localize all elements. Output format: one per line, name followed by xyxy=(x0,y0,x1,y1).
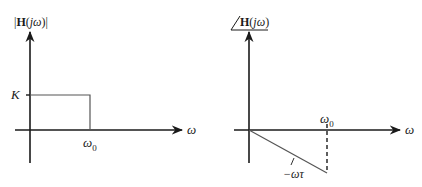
frequency-response-diagram: |H(jω)| K ω0 ω H(jω) ω0 −ωτ ω xyxy=(0,0,422,187)
magnitude-curve xyxy=(30,95,90,130)
slope-label-leader xyxy=(291,158,294,165)
magnitude-cutoff-label: ω0 xyxy=(83,135,97,153)
phase-x-label: ω xyxy=(405,122,414,137)
k-label: K xyxy=(10,87,21,102)
phase-y-label: H(jω) xyxy=(240,15,269,29)
magnitude-x-label: ω xyxy=(187,122,196,137)
magnitude-plot: |H(jω)| K ω0 ω xyxy=(10,15,196,163)
magnitude-y-label: |H(jω)| xyxy=(14,15,48,29)
phase-plot: H(jω) ω0 −ωτ ω xyxy=(231,15,414,181)
slope-label: −ωτ xyxy=(283,167,305,181)
